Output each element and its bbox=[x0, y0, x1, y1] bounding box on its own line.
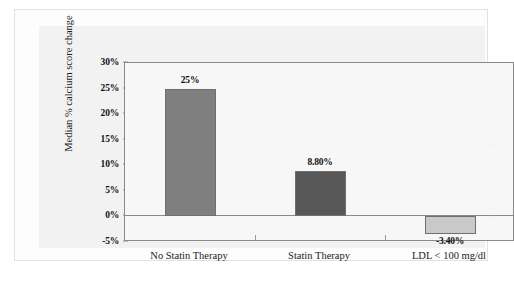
y-axis-tick-label: -5% bbox=[102, 236, 119, 246]
bleed-line: • bbox=[492, 123, 512, 132]
y-axis-tick-label: 25% bbox=[101, 83, 119, 93]
bar bbox=[425, 216, 476, 233]
x-axis-category-label: LDL < 100 mg/dl bbox=[412, 250, 486, 261]
y-axis-tick-label: 15% bbox=[101, 134, 119, 144]
x-axis-category-labels: No Statin TherapyStatin TherapyLDL < 100… bbox=[124, 250, 514, 270]
bar bbox=[295, 171, 346, 216]
bar bbox=[165, 89, 216, 217]
y-axis-tick-labels: 30%25%20%15%10%5%0%-5% bbox=[87, 62, 123, 241]
plot-area: 25%8.80%-3.40% bbox=[124, 62, 514, 241]
y-axis-title: Median % calcium score change bbox=[63, 0, 74, 169]
y-axis-tick-label: 20% bbox=[101, 108, 119, 118]
bleed-line: • bbox=[492, 132, 512, 141]
bar-value-label: 25% bbox=[181, 75, 199, 85]
bleed-line: • bbox=[492, 141, 512, 150]
x-axis-category-label: No Statin Therapy bbox=[150, 250, 227, 261]
y-axis-tick-label: 0% bbox=[105, 210, 119, 220]
bleed-line: • bbox=[492, 105, 512, 114]
bleed-line: • bbox=[492, 150, 512, 159]
bleed-line: • bbox=[492, 195, 512, 204]
bleed-line: • bbox=[492, 168, 512, 177]
bleed-line: • bbox=[492, 213, 512, 222]
y-axis-tick-label: 5% bbox=[105, 185, 119, 195]
chart-plate: Median % calcium score change 30%25%20%1… bbox=[39, 26, 485, 248]
bar-value-label: 8.80% bbox=[307, 157, 332, 167]
bleed-line: • bbox=[492, 96, 512, 105]
y-axis-tick-label: 30% bbox=[101, 57, 119, 67]
bleed-line: • bbox=[492, 186, 512, 195]
y-axis-tick-label: 10% bbox=[101, 159, 119, 169]
bleed-line: • bbox=[492, 204, 512, 213]
x-axis-tick-mark bbox=[255, 235, 256, 240]
bleed-line: • bbox=[492, 114, 512, 123]
x-axis-category-label: Statin Therapy bbox=[288, 250, 350, 261]
figure-frame: Median % calcium score change 30%25%20%1… bbox=[14, 9, 488, 261]
page-bleed-text: •••••••••••••• bbox=[492, 96, 512, 246]
bar-value-label: -3.40% bbox=[436, 236, 464, 246]
bleed-line: • bbox=[492, 159, 512, 168]
x-axis-tick-mark bbox=[385, 235, 386, 240]
bleed-line: • bbox=[492, 177, 512, 186]
